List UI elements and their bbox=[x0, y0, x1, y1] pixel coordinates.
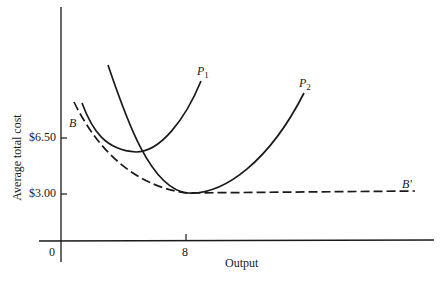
curve-p1 bbox=[82, 81, 201, 152]
y-tick-label-300: $3.00 bbox=[6, 186, 56, 201]
curve-p2 bbox=[108, 65, 304, 193]
label-p2-sub: 2 bbox=[306, 82, 311, 92]
label-b-prime: B' bbox=[402, 177, 412, 192]
x-tick-label-8: 8 bbox=[182, 245, 188, 260]
curve-envelope-bb bbox=[74, 102, 415, 193]
label-p1-sub: 1 bbox=[204, 70, 209, 80]
label-p1: P1 bbox=[197, 64, 209, 80]
x-axis bbox=[39, 240, 434, 241]
y-tick-label-650: $6.50 bbox=[6, 130, 56, 145]
label-p2: P2 bbox=[299, 76, 311, 92]
label-b: B bbox=[69, 116, 76, 131]
x-origin-label: 0 bbox=[49, 245, 55, 260]
x-axis-label: Output bbox=[225, 256, 258, 271]
chart-canvas bbox=[0, 0, 441, 282]
